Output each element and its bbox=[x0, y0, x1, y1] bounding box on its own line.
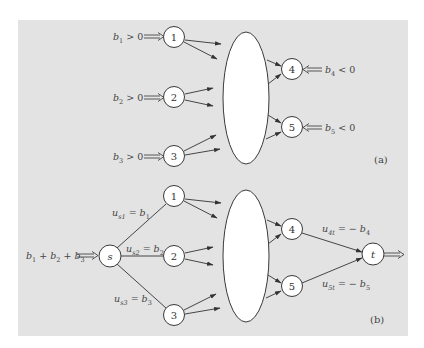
network-ellipse-a bbox=[223, 32, 269, 164]
svg-text:5: 5 bbox=[289, 281, 295, 292]
panel-a-tag: (a) bbox=[374, 154, 388, 165]
svg-text:1: 1 bbox=[171, 32, 177, 43]
svg-text:2: 2 bbox=[171, 92, 177, 103]
svg-text:4: 4 bbox=[289, 64, 295, 75]
svg-text:3: 3 bbox=[171, 151, 177, 162]
svg-text:2: 2 bbox=[171, 251, 177, 262]
network-ellipse-b bbox=[223, 190, 269, 322]
node-a-4: 4 bbox=[282, 59, 303, 80]
network-flow-figure: b1 > 0 b2 > 0 b3 > 0 b4 < 0 b5 < 0 1 2 3… bbox=[0, 0, 424, 348]
node-b-3: 3 bbox=[164, 305, 185, 326]
svg-text:4: 4 bbox=[289, 224, 295, 235]
node-b-2: 2 bbox=[164, 246, 185, 267]
panel-b-tag: (b) bbox=[370, 314, 384, 325]
node-a-1: 1 bbox=[164, 27, 185, 48]
node-a-2: 2 bbox=[164, 87, 185, 108]
node-a-5: 5 bbox=[282, 117, 303, 138]
svg-text:s: s bbox=[107, 251, 112, 262]
node-b-1: 1 bbox=[164, 186, 185, 207]
node-a-3: 3 bbox=[164, 146, 185, 167]
node-b-4: 4 bbox=[282, 219, 303, 240]
svg-text:3: 3 bbox=[171, 310, 177, 321]
svg-text:1: 1 bbox=[171, 191, 177, 202]
node-b-5: 5 bbox=[282, 276, 303, 297]
sink-node-t: t bbox=[362, 243, 384, 265]
source-node-s: s bbox=[99, 245, 121, 267]
svg-text:5: 5 bbox=[289, 122, 295, 133]
